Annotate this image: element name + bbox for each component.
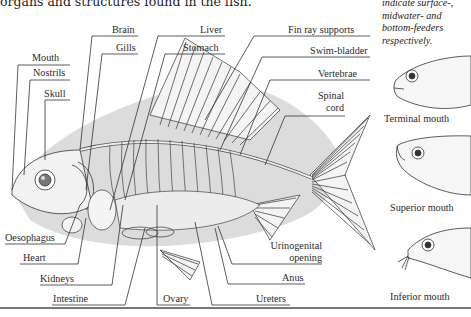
- superior-mouth-fish: [396, 136, 471, 195]
- label-kidneys: Kidneys: [40, 273, 74, 285]
- label-stomach: Stomach: [183, 42, 219, 54]
- liver-organ: [88, 190, 116, 230]
- label-ureters: Ureters: [256, 293, 286, 305]
- pelvic-fin: [160, 250, 200, 280]
- label-brain: Brain: [112, 24, 135, 36]
- label-mouth: Mouth: [32, 52, 59, 64]
- label-line: opening: [262, 252, 322, 264]
- label-line: Urinogenital: [262, 240, 322, 252]
- label-nostrils: Nostrils: [33, 67, 65, 79]
- label-ovary: Ovary: [163, 293, 188, 305]
- label-spinal-cord: Spinal cord: [312, 90, 344, 114]
- caption-inferior-mouth: Inferior mouth: [390, 291, 450, 302]
- fish-anatomy-diagram: [0, 0, 471, 317]
- label-urinogenital-opening: Urinogenital opening: [262, 240, 322, 264]
- label-line: cord: [312, 102, 344, 114]
- label-line: Spinal: [312, 90, 344, 102]
- label-oesophagus: Oesophagus: [5, 232, 55, 244]
- caption-terminal-mouth: Terminal mouth: [384, 113, 449, 124]
- label-vertebrae: Vertebrae: [318, 68, 357, 80]
- label-anus: Anus: [282, 272, 304, 284]
- label-gills: Gills: [116, 42, 136, 54]
- caption-superior-mouth: Superior mouth: [390, 202, 454, 213]
- label-heart: Heart: [23, 252, 46, 264]
- terminal-mouth-fish: [394, 56, 471, 108]
- label-skull: Skull: [44, 88, 66, 100]
- label-fin-ray-supports: Fin ray supports: [288, 24, 354, 36]
- label-intestine: Intestine: [53, 293, 88, 305]
- fish-head: [12, 150, 94, 214]
- bottom-rule: [0, 307, 471, 309]
- label-swim-bladder: Swim-bladder: [310, 45, 368, 57]
- label-liver: Liver: [200, 24, 222, 36]
- inferior-mouth-fish: [398, 228, 471, 278]
